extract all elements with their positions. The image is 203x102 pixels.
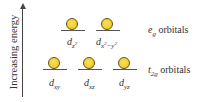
- orbital-label-dx2-y2: dx2−y2: [96, 36, 117, 50]
- orbital-label-dxz: dxz: [84, 77, 95, 91]
- axis-label: Increasing energy: [8, 15, 19, 90]
- energy-arrow-shaft: [22, 8, 23, 97]
- orbital-label-dyz: dyz: [119, 77, 130, 91]
- orbital-label-dz2: dz2: [67, 36, 77, 50]
- orbital-label-dxy: dxy: [49, 77, 60, 91]
- energy-level-line: [43, 69, 67, 70]
- electron-icon: [66, 18, 78, 30]
- energy-level-line: [113, 69, 137, 70]
- t2g-group-label: t2g orbitals: [148, 64, 190, 78]
- arrow-up-icon: [20, 3, 26, 9]
- electron-icon: [48, 57, 60, 69]
- electron-icon: [83, 57, 95, 69]
- energy-level-line: [78, 69, 102, 70]
- energy-level-line: [96, 30, 120, 31]
- electron-icon: [118, 57, 130, 69]
- electron-icon: [101, 18, 113, 30]
- energy-level-line: [61, 30, 85, 31]
- eg-group-label: eg orbitals: [148, 24, 188, 38]
